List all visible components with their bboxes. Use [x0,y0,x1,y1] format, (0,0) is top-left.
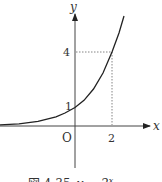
y-axis-label: y [69,0,77,14]
tick-label-y4: 4 [63,46,70,59]
x-axis-label: x [153,119,160,133]
origin-label: O [62,131,72,145]
exponential-graph: y x O 4 1 2 図 4.35y = 2x [0,0,162,182]
tick-label-x2: 2 [108,132,115,145]
figure-caption: 図 4.35y = 2x [28,176,114,182]
tick-label-y1: 1 [65,100,72,113]
curve-2-pow-x [0,16,124,125]
